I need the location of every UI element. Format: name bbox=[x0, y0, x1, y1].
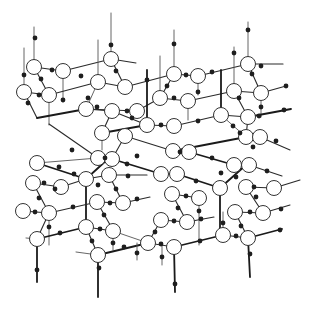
bridge-dot bbox=[135, 251, 140, 256]
node-circle bbox=[167, 240, 182, 255]
node-circle bbox=[181, 94, 196, 109]
bond-line bbox=[37, 158, 98, 163]
node-circle bbox=[167, 119, 182, 134]
bridge-dot bbox=[172, 42, 177, 47]
bridge-dot bbox=[234, 234, 239, 239]
bridge-dot bbox=[278, 228, 283, 233]
node-circle bbox=[182, 145, 197, 160]
node-circle bbox=[214, 108, 229, 123]
bridge-dot bbox=[250, 72, 255, 77]
node-circle bbox=[253, 130, 268, 145]
bridge-dot bbox=[50, 68, 55, 73]
bridge-dot bbox=[135, 154, 140, 159]
bridge-dot bbox=[196, 90, 201, 95]
node-circle bbox=[56, 64, 71, 79]
bridge-dot bbox=[197, 209, 202, 214]
bridge-dot bbox=[47, 225, 52, 230]
bridge-dot bbox=[252, 185, 257, 190]
node-circle bbox=[104, 52, 119, 67]
bridge-dot bbox=[98, 227, 103, 232]
node-circle bbox=[42, 206, 57, 221]
node-circle bbox=[153, 91, 168, 106]
bridge-dot bbox=[26, 101, 31, 106]
bridge-dot bbox=[196, 119, 201, 124]
bridge-dot bbox=[39, 77, 44, 82]
node-circle bbox=[213, 181, 228, 196]
bridge-dot bbox=[279, 207, 284, 212]
bond-line bbox=[49, 124, 98, 158]
bridge-dot bbox=[159, 242, 164, 247]
bridge-dot bbox=[108, 201, 113, 206]
node-circle bbox=[170, 167, 185, 182]
bridge-dot bbox=[70, 148, 75, 153]
bridge-dot bbox=[176, 206, 181, 211]
bridge-dot bbox=[259, 64, 264, 69]
bridge-dot bbox=[284, 84, 289, 89]
node-circle bbox=[79, 102, 94, 117]
bridge-dot bbox=[97, 266, 102, 271]
bridge-dot bbox=[153, 230, 158, 235]
node-circle bbox=[42, 88, 57, 103]
bridge-dot bbox=[130, 116, 135, 121]
bridge-dot bbox=[159, 123, 164, 128]
bridge-dot bbox=[58, 231, 63, 236]
node-circle bbox=[180, 215, 195, 230]
node-circle bbox=[105, 104, 120, 119]
bridge-dot bbox=[194, 179, 199, 184]
bridge-dot bbox=[238, 131, 243, 136]
bridge-dot bbox=[178, 150, 183, 155]
bridge-dot bbox=[274, 139, 279, 144]
node-circle bbox=[95, 126, 110, 141]
bridge-dot bbox=[22, 73, 27, 78]
bridge-dot bbox=[42, 181, 47, 186]
bridge-dot bbox=[114, 69, 119, 74]
bridge-dot bbox=[231, 124, 236, 129]
node-circle bbox=[256, 206, 271, 221]
node-circle bbox=[102, 168, 117, 183]
atom-nodes bbox=[16, 52, 282, 263]
bridge-dot bbox=[165, 84, 170, 89]
bridge-dot bbox=[111, 241, 116, 246]
bridge-dot bbox=[259, 105, 264, 110]
node-circle bbox=[26, 176, 41, 191]
bridge-dot bbox=[90, 239, 95, 244]
node-circle bbox=[165, 187, 180, 202]
node-circle bbox=[191, 69, 206, 84]
bridge-dot bbox=[71, 205, 76, 210]
node-circle bbox=[241, 110, 256, 125]
node-circle bbox=[79, 220, 94, 235]
node-circle bbox=[141, 236, 156, 251]
bridge-dot bbox=[198, 239, 203, 244]
node-circle bbox=[267, 181, 282, 196]
bridge-dot bbox=[103, 156, 108, 161]
node-circle bbox=[192, 191, 207, 206]
bridge-dot bbox=[33, 36, 38, 41]
node-circle bbox=[241, 57, 256, 72]
node-circle bbox=[154, 213, 169, 228]
bridge-dot bbox=[86, 96, 91, 101]
bridge-dot bbox=[114, 187, 119, 192]
bridge-dot bbox=[102, 213, 107, 218]
bridge-dot bbox=[96, 183, 101, 188]
bridge-dot bbox=[265, 169, 270, 174]
node-circle bbox=[216, 228, 231, 243]
bridge-dot bbox=[37, 93, 42, 98]
node-circle bbox=[106, 224, 121, 239]
bridge-dot bbox=[254, 195, 259, 200]
node-circle bbox=[140, 118, 155, 133]
node-circle bbox=[154, 167, 169, 182]
node-circle bbox=[30, 232, 45, 247]
node-circle bbox=[17, 85, 32, 100]
network-lattice-diagram bbox=[0, 0, 316, 311]
bridge-dot bbox=[239, 224, 244, 229]
node-circle bbox=[116, 196, 131, 211]
bridge-dot bbox=[232, 51, 237, 56]
bridge-dot bbox=[125, 109, 130, 114]
bridge-dot bbox=[172, 219, 177, 224]
node-circle bbox=[118, 80, 133, 95]
bridge-dot bbox=[184, 73, 189, 78]
bridge-dot bbox=[221, 221, 226, 226]
bridge-dot bbox=[79, 74, 84, 79]
bridge-dot bbox=[246, 28, 251, 33]
bridge-dot bbox=[109, 43, 114, 48]
